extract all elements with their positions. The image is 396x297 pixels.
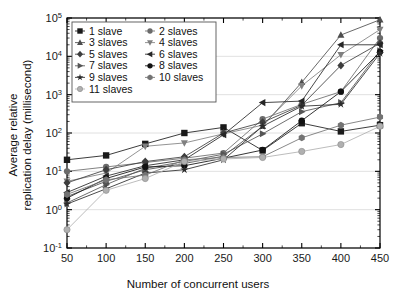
data-point-circle-filled bbox=[299, 118, 305, 124]
data-point-circle bbox=[64, 168, 70, 174]
x-tick-label: 50 bbox=[61, 252, 73, 264]
chart-figure: 10-1100101102103104105 50100150200250300… bbox=[0, 0, 396, 297]
legend-label: 1 slave bbox=[89, 25, 122, 37]
replication-delay-line-chart: 10-1100101102103104105 50100150200250300… bbox=[0, 0, 396, 297]
data-point-circle-light bbox=[103, 187, 109, 193]
legend-label: 8 slaves bbox=[159, 59, 198, 71]
legend-label: 3 slaves bbox=[89, 36, 128, 48]
data-point-circle-filled bbox=[338, 88, 344, 94]
y-axis-title-line2: replication delay (millisecond) bbox=[21, 59, 33, 210]
legend-label: 2 slaves bbox=[159, 25, 198, 37]
data-point-square bbox=[77, 28, 82, 33]
x-tick-label: 400 bbox=[332, 252, 350, 264]
x-tick-label: 450 bbox=[371, 252, 389, 264]
data-point-circle-filled bbox=[259, 147, 265, 153]
data-point-circle-light bbox=[220, 156, 226, 162]
legend-label: 5 slaves bbox=[89, 48, 128, 60]
data-point-circle-light bbox=[64, 227, 70, 233]
x-tick-label: 200 bbox=[175, 252, 193, 264]
legend-label: 9 slaves bbox=[89, 71, 128, 83]
legend-label: 7 slaves bbox=[89, 59, 128, 71]
x-tick-label: 250 bbox=[214, 252, 232, 264]
y-axis-title-line1: Average relative bbox=[7, 94, 19, 177]
data-point-circle-light bbox=[259, 154, 265, 160]
legend-label: 4 slaves bbox=[159, 36, 198, 48]
legend-label: 10 slaves bbox=[159, 71, 203, 83]
x-tick-label: 300 bbox=[253, 252, 271, 264]
data-point-circle-light bbox=[377, 123, 383, 129]
x-tick-label: 150 bbox=[136, 252, 154, 264]
data-point-circle-light bbox=[338, 141, 344, 147]
chart-legend[interactable]: 1 slave2 slaves3 slaves4 slaves5 slaves6… bbox=[72, 22, 216, 102]
data-point-square bbox=[181, 130, 187, 136]
data-point-circle-filled bbox=[147, 63, 152, 68]
data-point-circle-light bbox=[181, 158, 187, 164]
data-point-circle-light bbox=[142, 175, 148, 181]
x-tick-label: 350 bbox=[293, 252, 311, 264]
x-axis-title: Number of concurrent users bbox=[127, 278, 270, 290]
legend-label: 6 slaves bbox=[159, 48, 198, 60]
x-tick-labels: 50100150200250300350400450 bbox=[61, 252, 389, 264]
data-point-square bbox=[103, 152, 109, 158]
data-point-square bbox=[338, 128, 344, 134]
data-point-circle-light bbox=[299, 148, 305, 154]
legend-label: 11 slaves bbox=[89, 83, 133, 95]
data-point-circle-light bbox=[77, 86, 82, 91]
data-point-circle bbox=[147, 28, 152, 33]
data-point-square bbox=[64, 157, 70, 163]
x-tick-label: 100 bbox=[97, 252, 115, 264]
